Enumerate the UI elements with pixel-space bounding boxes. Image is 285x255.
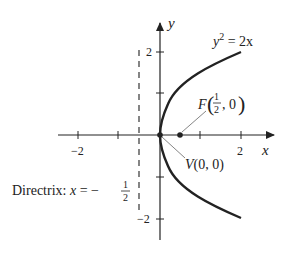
focus-point	[177, 132, 183, 138]
vertex-label: V(0, 0)	[185, 157, 224, 173]
svg-text:1: 1	[214, 91, 219, 102]
svg-text:F: F	[197, 97, 207, 112]
x-axis-label: x	[261, 142, 269, 158]
curve-equation-label: y2 = 2x	[211, 31, 253, 49]
svg-text:, 0: , 0	[222, 97, 236, 112]
svg-text:): )	[238, 91, 245, 116]
svg-text:Directrix: x = −: Directrix: x = −	[12, 183, 99, 198]
x-tick-label-2: 2	[237, 144, 243, 158]
parabola-diagram: −2 2 2 −2 y x y2 = 2x F ( 1 2 , 0 ) V(0,…	[0, 0, 285, 255]
y-tick-label-2: 2	[146, 45, 152, 59]
focus-leader-line	[182, 111, 206, 132]
svg-text:1: 1	[123, 179, 128, 190]
y-axis-label: y	[166, 15, 175, 31]
directrix-label: Directrix: x = − 1 2	[12, 179, 130, 203]
vertex-point	[157, 132, 163, 138]
x-tick-label-neg2: −2	[71, 144, 84, 158]
vertex-leader-line	[162, 137, 185, 158]
y-tick-label-neg2: −2	[137, 212, 150, 226]
svg-text:2: 2	[123, 192, 128, 203]
svg-text:2: 2	[214, 104, 219, 115]
